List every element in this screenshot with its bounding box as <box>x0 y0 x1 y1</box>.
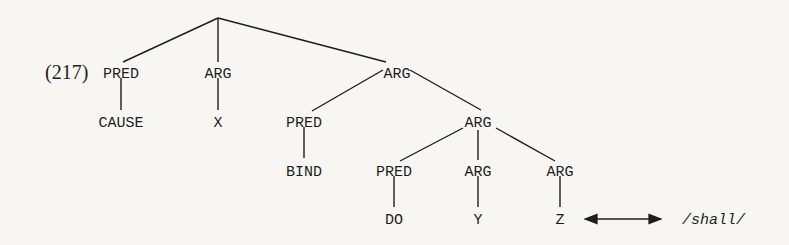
node-arg-embedded: ARG <box>383 66 410 83</box>
syntax-tree: (217) PRED ARG ARG CAUSE X PRED ARG BIND… <box>0 0 789 245</box>
node-arg-x: ARG <box>204 66 231 83</box>
example-number: (217) <box>45 61 88 84</box>
leaf-y: Y <box>473 212 482 229</box>
node-pred: PRED <box>103 66 139 83</box>
phonological-form: /shall/ <box>682 212 746 229</box>
node-arg-y: ARG <box>464 164 491 181</box>
node-pred-do: PRED <box>376 164 412 181</box>
leaf-do: DO <box>385 212 403 229</box>
node-arg-inner: ARG <box>464 115 491 132</box>
leaf-cause: CAUSE <box>98 115 143 132</box>
leaf-x: X <box>213 115 222 132</box>
leaf-z: Z <box>555 212 564 229</box>
node-arg-z: ARG <box>546 164 573 181</box>
leaf-bind: BIND <box>286 164 322 181</box>
node-pred-bind: PRED <box>286 115 322 132</box>
tree-edges <box>121 18 560 207</box>
